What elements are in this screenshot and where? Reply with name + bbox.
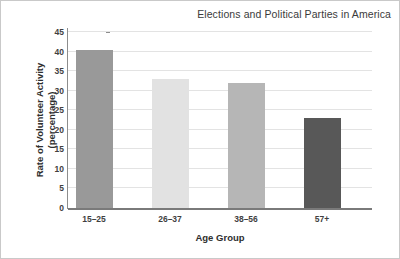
- bar: [76, 50, 113, 208]
- plot-area: [68, 32, 372, 208]
- chart-figure: Elections and Political Parties in Ameri…: [0, 0, 400, 259]
- y-axis-tick-label: 0: [42, 203, 64, 213]
- gridline: [68, 31, 372, 32]
- x-axis-tick-label: 38–56: [234, 214, 258, 224]
- x-axis-tick-label: 15–25: [82, 214, 106, 224]
- x-axis-title: Age Group: [68, 232, 372, 243]
- gridline: [68, 70, 372, 71]
- y-axis-tick-label: 20: [42, 125, 64, 135]
- y-axis-tick-labels: 051015202530354045: [40, 1, 64, 259]
- gridline: [68, 90, 372, 91]
- gridline: [68, 109, 372, 110]
- y-axis-title-container: Rate of Volunteer Activity (percentage): [21, 32, 37, 208]
- y-axis-tick-label: 10: [42, 164, 64, 174]
- y-axis-tick-label: 5: [42, 183, 64, 193]
- x-axis-tick-label: 26–37: [158, 214, 182, 224]
- bar: [228, 83, 265, 208]
- y-axis-tick-label: 25: [42, 105, 64, 115]
- y-axis-tick-label: 40: [42, 47, 64, 57]
- y-axis-tick-label: 45: [42, 27, 64, 37]
- bar: [152, 79, 189, 208]
- y-axis-tick-label: 35: [42, 66, 64, 76]
- x-axis-line: [68, 208, 372, 210]
- y-axis-tick-label: 30: [42, 86, 64, 96]
- bar: [304, 118, 341, 208]
- y-axis-tick-label: 15: [42, 144, 64, 154]
- gridline: [68, 51, 372, 52]
- x-axis-tick-label: 57+: [315, 214, 329, 224]
